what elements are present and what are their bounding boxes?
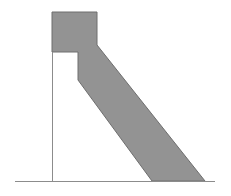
figure-container (0, 0, 231, 196)
technical-drawing-svg (0, 0, 231, 196)
